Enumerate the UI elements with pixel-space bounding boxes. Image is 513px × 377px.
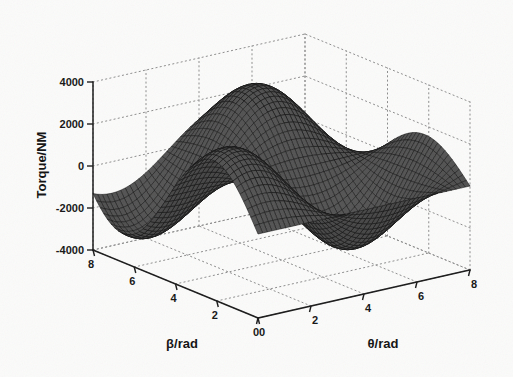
beta-tick-label: 8 (88, 258, 94, 270)
y-axis-title: θ/rad (368, 336, 399, 351)
z-tick-label: -4000 (56, 244, 84, 256)
z-axis-title: Torque/NM (34, 132, 49, 199)
beta-tick-label: 2 (212, 309, 218, 321)
beta-tick-label: 4 (170, 292, 177, 304)
z-tick-label: 0 (78, 160, 84, 172)
z-tick-label: 2000 (60, 118, 84, 130)
surface-plot-figure: 400020000-2000-40008642002468 Torque/NM … (0, 0, 513, 377)
surface-mesh (93, 83, 470, 249)
beta-tick-label: 6 (129, 275, 135, 287)
plot-canvas: 400020000-2000-40008642002468 Torque/NM … (0, 0, 513, 377)
theta-tick-label: 6 (418, 290, 424, 302)
theta-tick-label: 2 (312, 314, 318, 326)
theta-tick-label: 0 (259, 326, 265, 338)
z-tick-label: -2000 (56, 202, 84, 214)
theta-tick-label: 8 (471, 278, 477, 290)
x-axis-title: β/rad (166, 336, 198, 351)
theta-tick-label: 4 (365, 302, 372, 314)
z-tick-label: 4000 (60, 76, 84, 88)
